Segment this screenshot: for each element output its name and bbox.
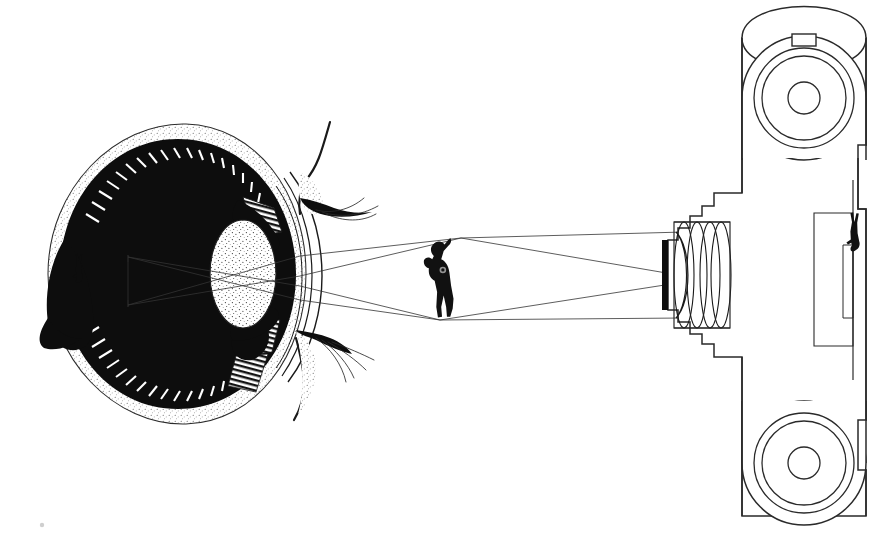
lower-reel-cover: [742, 401, 866, 463]
figure-root: Comparison of the human eye and the phot…: [0, 0, 893, 544]
upper-reel-cover: [742, 98, 866, 158]
lens-barrel-front: [662, 240, 668, 310]
crystalline-lens: [210, 220, 276, 328]
plate-speck: [40, 523, 44, 527]
winding-knob[interactable]: [792, 34, 816, 46]
eye-camera-optics-diagram: Comparison of the human eye and the phot…: [0, 0, 893, 544]
